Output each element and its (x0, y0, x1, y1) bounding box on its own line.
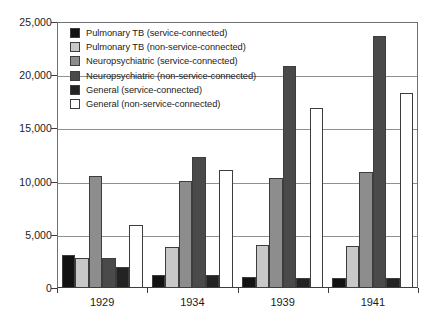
bar (116, 267, 130, 288)
legend-swatch-icon (70, 28, 80, 38)
legend-item: General (service-connected) (70, 83, 285, 97)
bar (332, 278, 346, 288)
bar (75, 258, 89, 288)
bar (179, 181, 193, 288)
legend-label: General (non-service-connected) (86, 99, 220, 109)
x-tick-mark (328, 288, 329, 293)
x-tick-mark (57, 288, 58, 293)
bar (400, 93, 414, 288)
y-tick-mark (51, 182, 57, 183)
legend-item: General (non-service-connected) (70, 97, 285, 111)
legend-swatch-icon (70, 56, 80, 66)
bar (89, 176, 103, 288)
bar (296, 278, 310, 288)
bar (152, 275, 166, 288)
bar (269, 178, 283, 288)
y-tick-label: 25,000 (4, 16, 52, 28)
legend-label: General (service-connected) (86, 85, 202, 95)
x-tick-mark (418, 288, 419, 293)
bar (62, 255, 76, 288)
legend-swatch-icon (70, 85, 80, 95)
legend-label: Pulmonary TB (service-connected) (86, 28, 227, 38)
bar (242, 277, 256, 288)
legend-item: Neuropsychiatric (service-connected) (70, 54, 285, 68)
y-tick-mark (51, 22, 57, 23)
legend-label: Neuropsychiatric (non-service-connected) (86, 71, 256, 81)
bar-chart: 05,00010,00015,00020,00025,000 Pulmonary… (0, 0, 435, 321)
legend-label: Neuropsychiatric (service-connected) (86, 56, 238, 66)
bar (165, 247, 179, 288)
legend-item: Pulmonary TB (service-connected) (70, 26, 285, 40)
legend-item: Pulmonary TB (non-service-connected) (70, 40, 285, 54)
y-tick-mark (51, 75, 57, 76)
y-tick-label: 20,000 (4, 69, 52, 81)
bar (206, 275, 220, 288)
legend-swatch-icon (70, 42, 80, 52)
bar (129, 225, 143, 288)
y-tick-mark (51, 128, 57, 129)
chart-legend: Pulmonary TB (service-connected)Pulmonar… (70, 26, 285, 111)
x-tick-label: 1939 (270, 296, 294, 308)
x-tick-label: 1934 (180, 296, 204, 308)
x-tick-mark (147, 288, 148, 293)
bar (359, 172, 373, 289)
legend-swatch-icon (70, 99, 80, 109)
y-axis: 05,00010,00015,00020,00025,000 (0, 0, 52, 321)
legend-item: Neuropsychiatric (non-service-connected) (70, 69, 285, 83)
y-tick-label: 5,000 (4, 229, 52, 241)
bar (310, 108, 324, 288)
y-tick-label: 10,000 (4, 176, 52, 188)
x-tick-label: 1941 (361, 296, 385, 308)
x-tick-mark (238, 288, 239, 293)
bar (386, 278, 400, 288)
legend-label: Pulmonary TB (non-service-connected) (86, 42, 246, 52)
x-tick-label: 1929 (90, 296, 114, 308)
y-tick-label: 0 (4, 282, 52, 294)
bar (192, 157, 206, 288)
y-tick-mark (51, 235, 57, 236)
legend-swatch-icon (70, 71, 80, 81)
bar (373, 36, 387, 288)
bar (346, 246, 360, 288)
bar (102, 258, 116, 288)
bar (219, 170, 233, 288)
y-tick-label: 15,000 (4, 122, 52, 134)
bar (256, 245, 270, 288)
